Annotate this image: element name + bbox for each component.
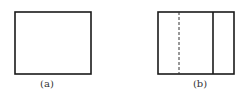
rectangle-b: [158, 12, 234, 74]
rectangle-a: [15, 12, 91, 74]
label-a: (a): [27, 78, 67, 89]
label-b: (b): [180, 78, 220, 89]
